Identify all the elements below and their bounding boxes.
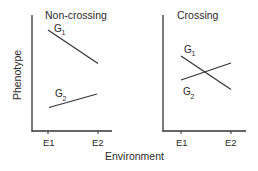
line-g1-right (181, 56, 231, 90)
y-axis-label: Phenotype (11, 50, 23, 100)
label-g1-right: G 1 (184, 44, 196, 57)
svg-text:2: 2 (191, 93, 195, 100)
line-g2-right (181, 63, 231, 80)
title-crossing: Crossing (177, 9, 219, 21)
tick-label-e2-right: E2 (225, 137, 237, 148)
tick-label-e1-right: E1 (176, 137, 188, 148)
x-axis-label: Environment (105, 150, 164, 162)
label-g1-left: G 1 (54, 23, 66, 36)
label-g2-left: G 2 (55, 88, 67, 102)
panel-crossing: Crossing G 1 G 2 E1 E2 (163, 9, 247, 148)
line-g1-left (48, 30, 98, 64)
tick-label-e1-left: E1 (43, 137, 55, 148)
svg-text:1: 1 (192, 50, 196, 57)
label-g2-right: G 2 (183, 86, 195, 100)
svg-text:2: 2 (63, 95, 67, 102)
tick-label-e2-left: E2 (92, 137, 104, 148)
reaction-norm-figure: Non-crossing G 1 G 2 E1 E2 Phenotype Cro… (0, 0, 258, 171)
title-non-crossing: Non-crossing (45, 9, 107, 21)
svg-text:1: 1 (62, 29, 66, 36)
panel-non-crossing: Non-crossing G 1 G 2 E1 E2 Phenotype (11, 9, 112, 148)
